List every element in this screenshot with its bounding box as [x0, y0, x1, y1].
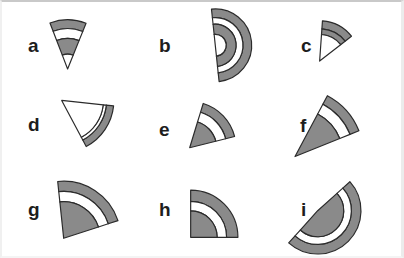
- panel-label-d: d: [28, 115, 40, 134]
- shape-i: [289, 182, 361, 254]
- shape-b: [211, 9, 251, 82]
- panel-label-e: e: [159, 120, 170, 139]
- shape-layer: [2, 2, 401, 256]
- panel-label-h: h: [159, 200, 171, 219]
- panel-label-b: b: [159, 36, 171, 55]
- figure-frame: abcdefghi: [0, 0, 404, 258]
- shape-a: [50, 20, 86, 69]
- shape-c: [320, 21, 352, 61]
- shape-a-band-2: [57, 38, 79, 55]
- panel-label-f: f: [300, 116, 306, 135]
- shape-h: [191, 190, 238, 237]
- shape-e: [190, 103, 235, 147]
- panel-label-a: a: [28, 36, 39, 55]
- shape-g: [58, 181, 118, 238]
- panel-label-i: i: [301, 200, 306, 219]
- shape-a-band-3: [62, 54, 73, 69]
- panel-label-g: g: [28, 200, 40, 219]
- shape-d: [62, 100, 114, 146]
- panel-label-c: c: [301, 36, 312, 55]
